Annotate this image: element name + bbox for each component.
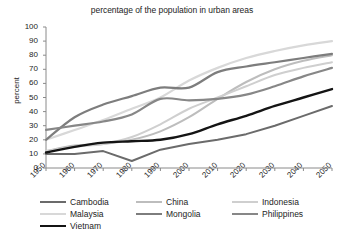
legend-item-china[interactable]: China <box>136 196 232 208</box>
chart-figure: percentage of the population in urban ar… <box>0 0 344 246</box>
chart-legend: CambodiaChinaIndonesiaMalaysiaMongoliaPh… <box>40 196 340 232</box>
legend-label: Malaysia <box>70 209 104 219</box>
legend-item-vietnam[interactable]: Vietnam <box>40 220 136 232</box>
legend-label: Vietnam <box>70 221 101 231</box>
legend-label: Indonesia <box>262 197 299 207</box>
legend-swatch-icon <box>40 201 66 203</box>
legend-item-mongolia[interactable]: Mongolia <box>136 208 232 220</box>
series-line-mongolia <box>46 54 332 140</box>
legend-item-philippines[interactable]: Philippines <box>232 208 340 220</box>
series-lines <box>46 41 332 161</box>
legend-label: Mongolia <box>166 209 201 219</box>
legend-row: Vietnam <box>40 220 340 232</box>
legend-item-malaysia[interactable]: Malaysia <box>40 208 136 220</box>
legend-label: Cambodia <box>70 197 109 207</box>
legend-swatch-icon <box>136 201 162 203</box>
legend-row: CambodiaChinaIndonesia <box>40 196 340 208</box>
legend-swatch-icon <box>232 213 258 215</box>
legend-swatch-icon <box>232 201 258 203</box>
legend-item-cambodia[interactable]: Cambodia <box>40 196 136 208</box>
legend-item-indonesia[interactable]: Indonesia <box>232 196 340 208</box>
legend-swatch-icon <box>136 213 162 215</box>
legend-label: Philippines <box>262 209 303 219</box>
legend-swatch-icon <box>40 213 66 215</box>
legend-swatch-icon <box>40 225 66 227</box>
legend-label: China <box>166 197 188 207</box>
series-line-china <box>46 55 332 151</box>
legend-row: MalaysiaMongoliaPhilippines <box>40 208 340 220</box>
series-line-malaysia <box>46 41 332 140</box>
series-line-indonesia <box>46 62 332 151</box>
